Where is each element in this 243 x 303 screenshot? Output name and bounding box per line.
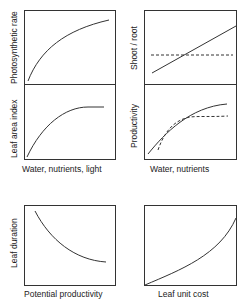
- ylabel-leaf-duration: Leaf duration: [9, 218, 19, 268]
- curve-leaf-unit-cost: [145, 218, 236, 285]
- ylabel-shoot-root: Shoot / root: [129, 25, 139, 70]
- xlabel-water-nutrients: Water, nutrients: [150, 164, 209, 174]
- panel-shoot-root: [145, 11, 237, 85]
- panel-leaf-unit-cost: [145, 206, 237, 286]
- xlabel-water-nutrients-light: Water, nutrients, light: [22, 164, 102, 174]
- xlabel-leaf-unit-cost: Leaf unit cost: [158, 289, 209, 299]
- xlabel-potential-productivity: Potential productivity: [24, 289, 103, 299]
- ylabel-leaf-area-index: Leaf area index: [9, 99, 19, 158]
- curve-productivity-dashed: [158, 116, 228, 150]
- figure: Photosynthetic rate Shoot / root Leaf ar…: [0, 0, 243, 303]
- ylabel-productivity: Productivity: [129, 103, 139, 148]
- panel-leaf-area-index: [25, 85, 116, 160]
- curve-photosynthetic-rate: [28, 20, 109, 81]
- ylabel-photosynthetic-rate: Photosynthetic rate: [9, 11, 19, 84]
- curve-shoot-root: [152, 26, 236, 73]
- curve-productivity: [148, 104, 227, 154]
- curve-leaf-duration: [35, 211, 106, 262]
- curve-leaf-area-index: [27, 107, 104, 157]
